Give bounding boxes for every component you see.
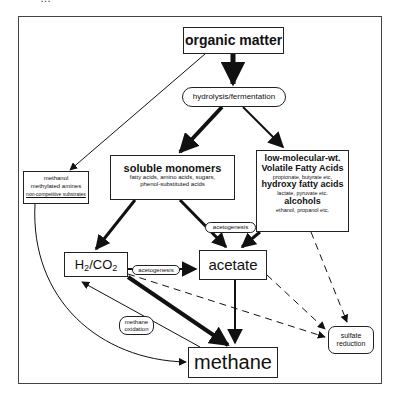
node-low-molecular-weight: low-molecular-wt. Volatile Fatty Acids p… [256, 150, 349, 232]
node-acetate: acetate [199, 250, 267, 280]
methanol-line1: methanol [24, 175, 88, 183]
node-soluble-monomers: soluble monomers fatty acids, amino acid… [110, 155, 235, 200]
label-acetogenesis-top: acetogenesis [205, 222, 256, 233]
lmw-title3: hydroxy fatty acids [257, 180, 348, 190]
node-methane: methane [188, 347, 278, 378]
node-h2-co2: H2/CO2 [64, 252, 128, 277]
node-organic-matter: organic matter [183, 27, 284, 54]
node-methanol: methanol methylated amines non-competiti… [23, 171, 89, 204]
soluble-title: soluble monomers [111, 162, 234, 174]
node-sulfate-reduction: sulfate reduction [328, 326, 374, 354]
label-acetogenesis-mid: acetogenesis [132, 265, 180, 275]
node-hydrolysis-fermentation: hydrolysis/fermentation [182, 87, 286, 107]
soluble-line2: phenol-substituted acids [111, 181, 234, 188]
methanol-line2: methylated amines [24, 183, 88, 191]
lmw-title2: Volatile Fatty Acids [257, 164, 348, 174]
lmw-title4: alcohols [257, 197, 348, 207]
label-methane-oxidation: methane oxidation [119, 316, 154, 335]
lmw-sub3: ethanol, propanol etc. [257, 207, 348, 214]
hydrolysis-label: hydrolysis/fermentation [193, 92, 275, 101]
soluble-line1: fatty acids, amino acids, sugars, [111, 174, 234, 181]
methanol-line3: non-competitive substrates [24, 191, 88, 198]
